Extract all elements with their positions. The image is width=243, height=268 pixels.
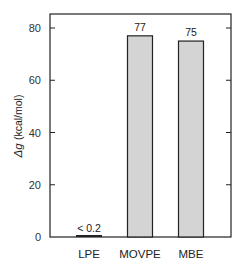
x-tick-label: MOVPE [119, 248, 161, 260]
value-label: < 0.2 [77, 222, 101, 234]
bar-movpe [128, 36, 153, 237]
value-label: 75 [185, 26, 197, 38]
y-axis-title-unit: (kcal/mol) [12, 95, 24, 141]
x-tick-label: MBE [179, 248, 204, 260]
y-tick-label: 20 [29, 179, 41, 191]
bar-chart: 020406080 < 0.27775 LPEMOVPEMBE Δg (kcal… [0, 0, 243, 268]
x-tick-label: LPE [78, 248, 100, 260]
y-tick-label: 80 [29, 22, 41, 34]
y-axis-title: Δg (kcal/mol) [12, 95, 24, 159]
value-label: 77 [134, 21, 146, 33]
y-tick-label: 60 [29, 74, 41, 86]
bars: < 0.27775 [76, 21, 204, 237]
y-axis-title-symbol: Δg [12, 140, 24, 158]
bar-mbe [179, 41, 204, 237]
y-tick-label: 0 [35, 231, 41, 243]
x-axis: LPEMOVPEMBE [78, 248, 204, 260]
y-tick-label: 40 [29, 127, 41, 139]
